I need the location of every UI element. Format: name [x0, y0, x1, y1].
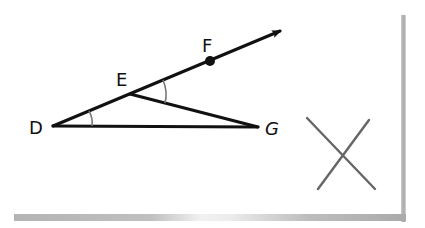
geometry-figure: D E F G: [0, 0, 425, 228]
angle-arc-E: [163, 80, 166, 103]
label-E: E: [116, 69, 127, 90]
x-mark-icon: [307, 118, 375, 189]
label-G: G: [265, 118, 279, 139]
segment-DG: [53, 126, 258, 127]
worksheet-page: D E F G: [0, 0, 425, 228]
ray-DF: [53, 31, 280, 126]
label-D: D: [29, 117, 43, 138]
point-F-dot: [205, 56, 215, 66]
angle-arc-D: [89, 111, 92, 126]
paper-shadow-bottom: [14, 214, 406, 221]
label-F: F: [202, 35, 212, 56]
paper-shadow-right: [401, 15, 406, 222]
segment-EG: [130, 94, 258, 127]
